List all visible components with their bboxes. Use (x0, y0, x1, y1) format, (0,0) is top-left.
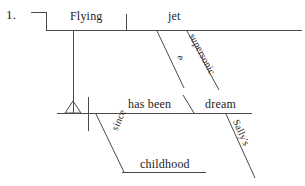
word-childhood: childhood (140, 158, 190, 170)
item-number-label: 1. (6, 8, 16, 21)
item-number-bracket (31, 12, 57, 30)
predicate-nominative-slant (183, 95, 194, 113)
word-flying: Flying (70, 10, 103, 22)
word-has-been: has been (128, 98, 171, 110)
word-dream: dream (205, 98, 236, 110)
sentence-diagram: 1. Flying jet a supersonic has been drea… (0, 0, 305, 186)
word-jet: jet (168, 10, 181, 22)
